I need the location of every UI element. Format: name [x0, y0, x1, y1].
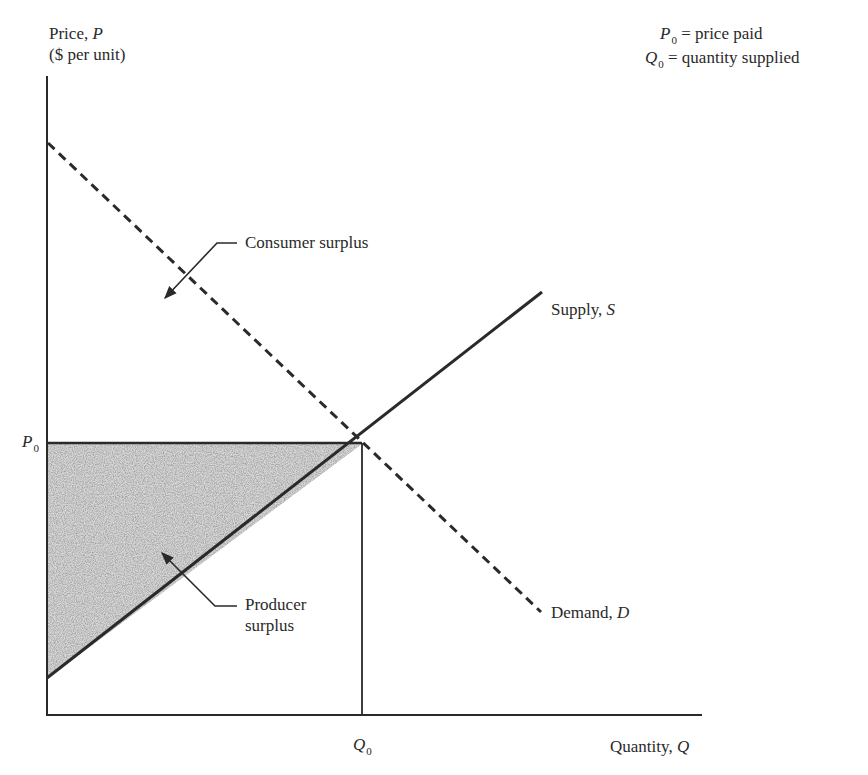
y-axis-label: Price, P [49, 24, 103, 44]
legend-p0: P0 = price paid [650, 24, 762, 45]
q0-definition: = quantity supplied [668, 48, 799, 67]
supply-variable: S [607, 300, 616, 319]
q0-symbol: Q [645, 48, 657, 67]
p0-tick-label: P0 [22, 432, 39, 453]
q0-tick-symbol: Q [353, 735, 365, 754]
x-axis-label: Quantity, Q [610, 737, 689, 757]
p0-subscript: 0 [671, 34, 677, 46]
legend-q0: Q0 = quantity supplied [645, 48, 799, 69]
demand-label-text: Demand, [551, 603, 617, 622]
y-axis-units: ($ per unit) [49, 45, 125, 65]
chart-canvas [0, 0, 868, 775]
supply-label-text: Supply, [551, 300, 607, 319]
consumer-surplus-label: Consumer surplus [245, 233, 368, 253]
p0-tick-symbol: P [22, 432, 32, 451]
supply-label: Supply, S [551, 300, 615, 320]
x-axis-label-text: Quantity, [610, 737, 677, 756]
producer-surplus-region [48, 444, 362, 678]
p0-definition: = price paid [681, 24, 762, 43]
x-axis-variable: Q [677, 737, 689, 756]
producer-surplus-label-line1: Producer [245, 595, 306, 615]
p0-tick-subscript: 0 [33, 442, 39, 454]
y-axis-label-text: Price, [49, 24, 92, 43]
q0-tick-subscript: 0 [366, 745, 372, 757]
y-axis-variable: P [92, 24, 102, 43]
producer-surplus-label-line2: surplus [245, 616, 294, 636]
q0-tick-label: Q0 [353, 735, 372, 756]
demand-variable: D [617, 603, 629, 622]
p0-symbol: P [660, 24, 670, 43]
q0-subscript: 0 [658, 58, 664, 70]
demand-label: Demand, D [551, 603, 629, 623]
